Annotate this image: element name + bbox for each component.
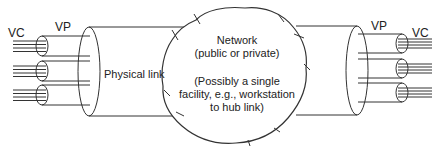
right-vc-label: VC (412, 26, 429, 40)
right-vp-tube-3 (358, 83, 432, 102)
network-note-line-2: facility, e.g., workstation (179, 88, 295, 100)
physical-link-label: Physical link (104, 68, 165, 80)
network-note-line-1: (Possibly a single (194, 75, 280, 87)
left-vp-label: VP (55, 20, 71, 34)
atm-connection-diagram: VC VP Physical link VP VC Network (publi… (0, 0, 443, 151)
right-vp-tubes (358, 34, 432, 102)
right-vp-tube-2 (358, 59, 432, 78)
left-vc-label: VC (8, 26, 25, 40)
network-note-line-3: to hub link) (210, 101, 264, 113)
network-title: Network (217, 34, 258, 46)
network-subtitle: (public or private) (195, 47, 280, 59)
right-vp-label: VP (371, 19, 387, 33)
